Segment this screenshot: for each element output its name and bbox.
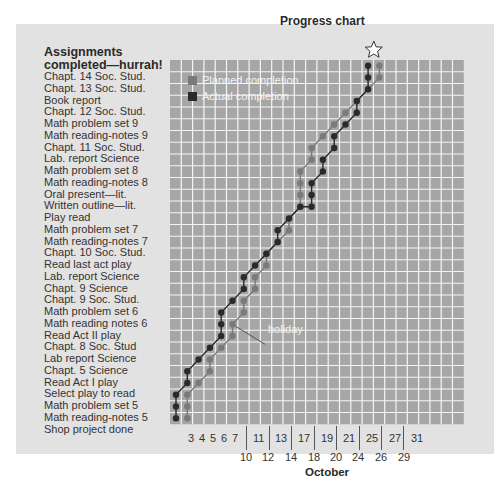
x-tick-label: 31 (411, 432, 423, 444)
data-point (365, 86, 371, 92)
data-point (365, 63, 371, 69)
data-point (308, 180, 314, 186)
data-point (297, 168, 303, 174)
legend-item-planned: Planned completion (188, 72, 299, 88)
task-label: Read last act play (44, 259, 148, 271)
x-tick-mark (291, 426, 292, 450)
data-point (286, 227, 292, 233)
planned-swatch-icon (188, 76, 197, 85)
data-point (241, 274, 247, 280)
task-label: Math problem set 8 (44, 165, 148, 177)
data-point (173, 403, 179, 409)
x-tick-mark (403, 426, 404, 450)
task-label: Shop project done (44, 424, 148, 436)
data-point (184, 403, 190, 409)
data-point (195, 356, 201, 362)
data-point (241, 309, 247, 315)
data-point (320, 168, 326, 174)
task-label: Math reading-notes 8 (44, 177, 148, 189)
task-label: Chapt. 13 Soc. Stud. (44, 83, 148, 95)
data-point (308, 157, 314, 163)
data-point (331, 133, 337, 139)
x-tick-label: 24 (352, 451, 364, 463)
data-point (241, 286, 247, 292)
legend-label-actual: Actual completion (202, 90, 289, 102)
task-list: Chapt. 14 Soc. Stud.Chapt. 13 Soc. Stud.… (44, 71, 148, 435)
data-point (195, 380, 201, 386)
data-point (252, 262, 258, 268)
data-point (173, 392, 179, 398)
actual-swatch-icon (188, 92, 197, 101)
task-label: Math problem set 5 (44, 400, 148, 412)
data-point (263, 251, 269, 257)
data-point (218, 333, 224, 339)
data-point (184, 368, 190, 374)
data-point (342, 121, 348, 127)
x-tick-mark (246, 426, 247, 450)
x-tick-label: 19 (321, 432, 333, 444)
data-point (184, 380, 190, 386)
data-point (320, 133, 326, 139)
data-point (184, 392, 190, 398)
task-label: Math reading-notes 5 (44, 412, 148, 424)
data-point (297, 180, 303, 186)
data-point (297, 204, 303, 210)
data-point (218, 321, 224, 327)
task-label: Math problem set 7 (44, 224, 148, 236)
x-axis-title: October (305, 466, 349, 478)
x-tick-label: 6 (221, 432, 227, 444)
x-tick-label: 4 (199, 432, 205, 444)
x-tick-label: 25 (366, 432, 378, 444)
x-tick-label: 29 (398, 451, 410, 463)
data-point (308, 204, 314, 210)
data-point (218, 345, 224, 351)
plot-area (170, 60, 470, 434)
x-tick-label: 17 (298, 432, 310, 444)
data-point (320, 157, 326, 163)
x-tick-label: 11 (253, 432, 264, 444)
tasks-heading: Assignments completed—hurrah! (44, 46, 174, 72)
x-tick-label: 5 (210, 432, 216, 444)
data-point (263, 262, 269, 268)
legend-item-actual: Actual completion (188, 88, 299, 104)
x-tick-label: 20 (330, 451, 342, 463)
data-point (342, 110, 348, 116)
data-point (207, 368, 213, 374)
x-tick-label: 10 (240, 451, 252, 463)
x-tick-label: 18 (308, 451, 320, 463)
data-point (207, 356, 213, 362)
data-point (376, 63, 382, 69)
data-point (229, 298, 235, 304)
data-point (286, 215, 292, 221)
data-point (229, 321, 235, 327)
data-point (218, 309, 224, 315)
data-point (354, 98, 360, 104)
data-point (275, 239, 281, 245)
data-point (354, 110, 360, 116)
task-label: Math problem set 9 (44, 118, 148, 130)
data-point (308, 192, 314, 198)
task-label: Play read (44, 212, 148, 224)
legend: Planned completion Actual completion (188, 72, 299, 104)
x-tick-label: 13 (275, 432, 287, 444)
data-point (241, 298, 247, 304)
x-tick-mark (269, 426, 270, 450)
task-label: Chapt. 14 Soc. Stud. (44, 71, 148, 83)
chart-title: Progress chart (280, 14, 365, 28)
data-point (376, 74, 382, 80)
data-point (331, 145, 337, 151)
data-point (252, 274, 258, 280)
x-tick-mark (381, 426, 382, 450)
x-tick-label: 21 (343, 432, 355, 444)
x-tick-label: 14 (285, 451, 297, 463)
holiday-annotation: holiday (268, 323, 303, 335)
x-tick-mark (314, 426, 315, 450)
x-tick-mark (359, 426, 360, 450)
data-point (184, 415, 190, 421)
data-point (275, 227, 281, 233)
x-tick-label: 27 (389, 432, 401, 444)
data-point (252, 286, 258, 292)
data-point (297, 192, 303, 198)
x-tick-label: 7 (232, 432, 238, 444)
data-point (229, 333, 235, 339)
